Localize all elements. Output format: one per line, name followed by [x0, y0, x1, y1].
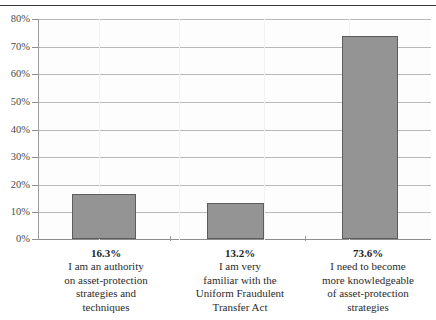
plot-area [38, 19, 430, 240]
x-label-group-authority: 16.3% I am an authority on asset-protect… [36, 246, 176, 314]
x-axis-separator [170, 236, 171, 241]
category-line: more knowledgeable [300, 274, 436, 288]
gridline-0-baseline [39, 239, 431, 240]
y-tick-mark-60 [32, 74, 38, 75]
bar-authority-asset-protection[interactable] [72, 194, 136, 239]
y-tick-mark-20 [32, 185, 38, 186]
category-line: Uniform Fraudulent [172, 287, 308, 301]
x-label-group-need-knowledge: 73.6% I need to become more knowledgeabl… [300, 246, 436, 314]
category-line: I need to become [300, 260, 436, 274]
y-tick-mark-70 [32, 47, 38, 48]
category-label-familiar: I am very familiar with the Uniform Frau… [172, 260, 308, 314]
y-tick-mark-40 [32, 130, 38, 131]
value-label-authority: 16.3% [36, 246, 176, 260]
y-tick-label-60: 60% [0, 69, 30, 79]
y-tick-label-80: 80% [0, 14, 30, 24]
y-tick-label-70: 70% [0, 42, 30, 52]
category-label-authority: I am an authority on asset-protection st… [36, 260, 176, 314]
category-line: I am an authority [36, 260, 176, 274]
y-tick-label-50: 50% [0, 97, 30, 107]
y-tick-mark-10 [32, 212, 38, 213]
x-label-group-familiar: 13.2% I am very familiar with the Unifor… [172, 246, 308, 314]
category-line: strategies [300, 301, 436, 315]
background-texture-line [264, 19, 265, 240]
y-tick-mark-30 [32, 157, 38, 158]
category-line: Transfer Act [172, 301, 308, 315]
category-line: familiar with the [172, 274, 308, 288]
value-label-need-knowledge: 73.6% [300, 246, 436, 260]
y-tick-label-10: 10% [0, 207, 30, 217]
category-line: of asset-protection [300, 287, 436, 301]
category-line: on asset-protection [36, 274, 176, 288]
gridline-80 [39, 19, 431, 20]
category-line: strategies and [36, 287, 176, 301]
background-texture-line [179, 19, 180, 240]
clipped-chart-title [0, 0, 436, 1]
value-label-familiar: 13.2% [172, 246, 308, 260]
bar-need-more-knowledge[interactable] [342, 36, 398, 239]
y-tick-label-30: 30% [0, 152, 30, 162]
x-axis-separator [305, 236, 306, 241]
title-divider-rule [0, 5, 436, 6]
y-tick-label-0: 0% [0, 234, 30, 244]
y-tick-label-40: 40% [0, 125, 30, 135]
y-tick-mark-0 [32, 239, 38, 240]
bar-chart-figure: 80% 70% 60% 50% 40% 30% 20% 10% 0% 16.3%… [0, 0, 436, 320]
category-line: techniques [36, 301, 176, 315]
category-line: I am very [172, 260, 308, 274]
category-label-need-knowledge: I need to become more knowledgeable of a… [300, 260, 436, 314]
y-tick-label-20: 20% [0, 180, 30, 190]
bar-familiar-uftsa[interactable] [207, 203, 264, 240]
y-tick-mark-80 [32, 19, 38, 20]
y-tick-mark-50 [32, 102, 38, 103]
